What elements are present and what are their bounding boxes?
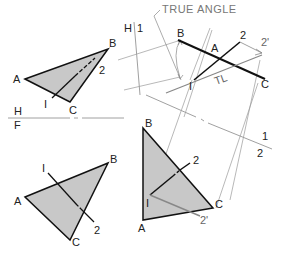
line-1-2prime bbox=[166, 55, 262, 93]
point-label-2: 2 bbox=[193, 154, 199, 166]
vertex-label-c: C bbox=[215, 198, 223, 210]
vertex-label-b: B bbox=[110, 153, 117, 165]
vertex-label-a: A bbox=[138, 222, 146, 234]
front-view: A B C I 2 bbox=[14, 153, 117, 248]
point-label-1: I bbox=[189, 80, 192, 92]
fold-label-h: H bbox=[14, 105, 22, 117]
point-label-1: I bbox=[42, 162, 45, 174]
vertex-label-a: A bbox=[211, 42, 219, 54]
fold-line-hf: H F bbox=[8, 105, 124, 131]
aux-view-2: B A C I 2 2' bbox=[138, 117, 223, 234]
point-label-2prime: 2' bbox=[200, 214, 208, 226]
triangle-abc-top bbox=[25, 49, 108, 102]
vertex-label-b: B bbox=[177, 27, 184, 39]
fold-line-h1: H 1 bbox=[124, 22, 143, 95]
fold-label-1: 1 bbox=[137, 22, 143, 34]
point-label-1: I bbox=[146, 197, 149, 209]
fold-label-2: 2 bbox=[257, 147, 263, 159]
point-label-2: 2 bbox=[240, 29, 246, 41]
vertex-label-c: C bbox=[261, 78, 269, 90]
point-label-2: 2 bbox=[94, 224, 100, 236]
descriptive-geometry-diagram: H F H 1 1 2 TRUE ANGLE bbox=[0, 0, 281, 254]
vertex-label-c: C bbox=[69, 104, 77, 116]
top-view: A B C I 2 bbox=[13, 37, 116, 116]
fold-label-h: H bbox=[124, 22, 132, 34]
aux-view-1: B A C I 2 2' TL bbox=[166, 27, 269, 93]
true-angle-label: TRUE ANGLE bbox=[162, 3, 237, 15]
point-label-1: I bbox=[44, 98, 47, 110]
vertex-label-b: B bbox=[109, 37, 116, 49]
fold-line-12: 1 2 bbox=[146, 95, 272, 159]
fold-label-f: F bbox=[14, 119, 21, 131]
vertex-label-b: B bbox=[145, 117, 152, 129]
vertex-label-a: A bbox=[14, 195, 22, 207]
fold-label-1: 1 bbox=[262, 130, 268, 142]
point-label-2: 2 bbox=[99, 64, 105, 76]
vertex-label-c: C bbox=[72, 236, 80, 248]
vertex-label-a: A bbox=[13, 73, 21, 85]
point-label-2prime: 2' bbox=[261, 36, 269, 48]
true-angle-annotation: TRUE ANGLE bbox=[154, 3, 237, 80]
